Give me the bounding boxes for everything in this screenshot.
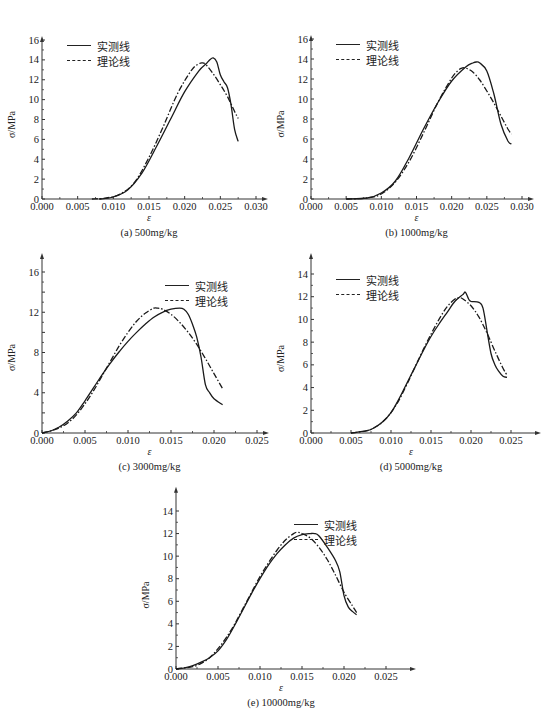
legend-theoretical-label: 理论线 bbox=[366, 52, 399, 68]
chart-caption: (d) 5000mg/kg bbox=[380, 461, 443, 472]
x-tick-label: 0.005 bbox=[73, 435, 97, 446]
y-tick-label: 4 bbox=[168, 618, 174, 629]
y-tick-label: 2 bbox=[168, 641, 173, 652]
chart-legend: 实测线理论线 bbox=[294, 517, 357, 547]
x-tick-label: 0.015 bbox=[137, 201, 161, 212]
x-axis-title: ε bbox=[279, 682, 283, 693]
measured-curve bbox=[176, 533, 357, 669]
y-tick-label: 8 bbox=[303, 337, 308, 348]
legend-theoretical: 理论线 bbox=[336, 287, 399, 302]
chart-caption: (b) 1000mg/kg bbox=[385, 227, 448, 238]
y-axis-arrow-icon bbox=[40, 253, 44, 259]
legend-theoretical-label: 理论线 bbox=[195, 293, 228, 309]
x-tick-label: 0.020 bbox=[332, 671, 356, 682]
x-axis-title: ε bbox=[148, 446, 152, 457]
y-tick-label: 10 bbox=[29, 94, 40, 105]
legend-measured: 实测线 bbox=[336, 37, 399, 52]
legend-theoretical-swatch-icon bbox=[67, 60, 91, 61]
legend-measured-swatch-icon bbox=[165, 285, 189, 286]
y-tick-label: 2 bbox=[34, 174, 39, 185]
chart-c: 0.0000.0050.0100.0150.0200.0250481216εσ/… bbox=[6, 253, 269, 457]
chart-legend: 实测线理论线 bbox=[165, 278, 228, 308]
x-axis-title: ε bbox=[415, 212, 419, 223]
legend-measured: 实测线 bbox=[294, 517, 357, 532]
x-tick-label: 0.010 bbox=[370, 201, 394, 212]
chart-e: 0.0000.0050.0100.0150.0200.0250246810121… bbox=[140, 487, 416, 693]
chart-a: 0.0000.0050.0100.0150.0200.0250.03002468… bbox=[6, 35, 268, 224]
legend-theoretical-swatch-icon bbox=[336, 294, 360, 295]
y-tick-label: 14 bbox=[163, 506, 174, 517]
x-tick-label: 0.005 bbox=[206, 671, 230, 682]
legend-measured: 实测线 bbox=[165, 278, 228, 293]
y-tick-label: 14 bbox=[298, 54, 309, 65]
y-tick-label: 0 bbox=[34, 194, 39, 205]
y-tick-label: 16 bbox=[29, 35, 40, 46]
legend-measured-label: 实测线 bbox=[366, 272, 399, 288]
x-tick-label: 0.020 bbox=[459, 435, 483, 446]
chart-caption: (e) 10000mg/kg bbox=[247, 697, 314, 708]
y-tick-label: 0 bbox=[303, 194, 308, 205]
theoretical-curve bbox=[346, 68, 511, 199]
y-tick-label: 4 bbox=[34, 154, 40, 165]
legend-theoretical-label: 理论线 bbox=[324, 532, 357, 548]
y-tick-label: 16 bbox=[29, 267, 40, 278]
x-tick-label: 0.030 bbox=[244, 201, 268, 212]
legend-theoretical: 理论线 bbox=[294, 532, 357, 547]
y-axis-arrow-icon bbox=[40, 36, 44, 42]
y-tick-label: 12 bbox=[298, 291, 309, 302]
legend-measured-swatch-icon bbox=[336, 279, 360, 280]
chart-d: 0.0000.0050.0100.0150.0200.0250246810121… bbox=[275, 253, 541, 457]
x-tick-label: 0.025 bbox=[374, 671, 398, 682]
legend-measured: 实测线 bbox=[336, 272, 399, 287]
x-tick-label: 0.010 bbox=[379, 435, 403, 446]
y-tick-label: 14 bbox=[298, 269, 309, 280]
legend-theoretical: 理论线 bbox=[165, 293, 228, 308]
legend-theoretical-swatch-icon bbox=[294, 539, 318, 540]
x-tick-label: 0.015 bbox=[290, 671, 314, 682]
measured-curve bbox=[346, 62, 511, 199]
x-tick-label: 0.020 bbox=[440, 201, 464, 212]
legend-measured-swatch-icon bbox=[294, 524, 318, 525]
y-tick-label: 12 bbox=[29, 307, 40, 318]
legend-measured-swatch-icon bbox=[67, 45, 91, 46]
legend-theoretical: 理论线 bbox=[336, 52, 399, 67]
y-axis-title: σ/MPa bbox=[140, 581, 151, 609]
x-tick-label: 0.015 bbox=[419, 435, 443, 446]
y-axis-title: σ/MPa bbox=[6, 343, 17, 371]
x-tick-label: 0.010 bbox=[102, 201, 126, 212]
legend-measured-label: 实测线 bbox=[366, 37, 399, 53]
x-axis-arrow-icon bbox=[535, 431, 541, 435]
chart-legend: 实测线理论线 bbox=[336, 272, 399, 302]
legend-measured-swatch-icon bbox=[336, 44, 360, 45]
measured-curve bbox=[351, 292, 507, 433]
chart-caption: (c) 3000mg/kg bbox=[118, 461, 180, 472]
chart-caption: (a) 500mg/kg bbox=[121, 227, 178, 238]
y-tick-label: 10 bbox=[163, 551, 174, 562]
legend-theoretical-label: 理论线 bbox=[366, 287, 399, 303]
chart-legend: 实测线理论线 bbox=[67, 38, 130, 68]
x-tick-label: 0.020 bbox=[173, 201, 197, 212]
y-tick-label: 10 bbox=[298, 94, 309, 105]
y-tick-label: 6 bbox=[168, 596, 173, 607]
y-axis-title: σ/MPa bbox=[6, 110, 17, 138]
y-tick-label: 6 bbox=[303, 134, 308, 145]
y-axis-arrow-icon bbox=[309, 253, 313, 259]
y-tick-label: 4 bbox=[303, 382, 309, 393]
y-tick-label: 4 bbox=[303, 154, 309, 165]
x-tick-label: 0.020 bbox=[202, 435, 226, 446]
legend-measured-label: 实测线 bbox=[195, 278, 228, 294]
y-tick-label: 4 bbox=[34, 387, 40, 398]
legend-measured: 实测线 bbox=[67, 38, 130, 53]
x-tick-label: 0.025 bbox=[209, 201, 233, 212]
y-tick-label: 0 bbox=[303, 428, 308, 439]
x-tick-label: 0.010 bbox=[116, 435, 140, 446]
y-tick-label: 2 bbox=[303, 174, 308, 185]
y-tick-label: 8 bbox=[168, 573, 173, 584]
theoretical-curve bbox=[42, 308, 223, 433]
y-tick-label: 2 bbox=[303, 405, 308, 416]
x-tick-label: 0.015 bbox=[405, 201, 429, 212]
y-tick-label: 0 bbox=[34, 428, 39, 439]
x-tick-label: 0.005 bbox=[334, 201, 358, 212]
legend-theoretical: 理论线 bbox=[67, 53, 130, 68]
legend-measured-label: 实测线 bbox=[324, 517, 357, 533]
